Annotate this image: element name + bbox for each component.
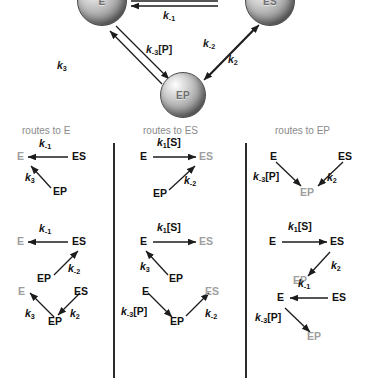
cycle-label-k2: k2 [228, 54, 238, 66]
r2c3-node-es: ES [330, 236, 344, 247]
r3c2-node-ep: EP [170, 316, 184, 327]
r3c2-node-es: ES [205, 286, 219, 297]
cycle-node-ep-label: EP [176, 90, 190, 101]
r1c2-node-es: ES [199, 151, 213, 162]
r2c1-label-k-minus-2: k-2 [68, 263, 80, 275]
r2c3-label-k1-s: k1[S] [288, 221, 312, 233]
cycle-node-e-label: E [99, 0, 106, 7]
r3c1-label-k2: k2 [70, 308, 80, 320]
r1c1-node-es: ES [72, 151, 86, 162]
r1c3-label-k2: k2 [327, 172, 337, 184]
r3c1-node-e: E [18, 286, 25, 297]
r2c3-node-e: E [269, 236, 276, 247]
r3c2-arrow-e-to-ep [148, 293, 172, 317]
r2c1-node-e: E [17, 236, 24, 247]
r2c2-node-ep: EP [169, 273, 183, 284]
routes-grid: routes to E routes to ES routes to EP [0, 120, 369, 388]
r2c3-label-k2: k2 [331, 260, 341, 272]
cycle-node-ep: EP [160, 72, 206, 118]
r3c1-node-es: ES [74, 286, 88, 297]
cycle-label-k-minus-1: k-1 [163, 10, 175, 22]
r1c1-label-k3: k3 [25, 172, 35, 184]
r1c1-node-ep: EP [53, 186, 67, 197]
r3c3-label-k-minus-1: k-1 [298, 278, 310, 290]
r3c3-node-es: ES [332, 292, 346, 303]
cycle-label-k3: k3 [57, 60, 67, 72]
r3c1-node-ep: EP [48, 316, 62, 327]
r1c2-label-k1-s: k1[S] [157, 137, 181, 149]
r2c2-label-k3: k3 [140, 261, 150, 273]
r1c1-label-k-minus-1: k-1 [39, 138, 51, 150]
r3c3-arrow-e-to-ep [285, 308, 310, 332]
r3c3-label-k-minus-3-p: k-3[P] [255, 312, 281, 324]
r1c3-node-ep: EP [300, 187, 314, 198]
r1c3-node-es: ES [338, 151, 352, 162]
cycle-label-k-minus-2: k-2 [203, 38, 215, 50]
arrow-ep-to-es [210, 25, 259, 75]
r1c2-label-k-minus-2: k-2 [184, 175, 196, 187]
r2c2-node-es: ES [199, 236, 213, 247]
r2c2-node-e: E [140, 236, 147, 247]
r3c3-node-ep: EP [307, 331, 321, 342]
r3c2-node-e: E [142, 286, 149, 297]
r1c3-label-k-minus-3-p: k-3[P] [253, 171, 279, 183]
r2c3-arrow-es-to-ep [308, 252, 330, 276]
r3c1-label-k3: k3 [25, 308, 35, 320]
r1c2-node-e: E [140, 151, 147, 162]
r1c3-arrow-e-to-ep [276, 162, 301, 186]
reaction-cycle-diagram: E ES EP k-1 k-3[P] k3 k-2 k2 [0, 0, 369, 122]
arrow-ep-to-e [110, 31, 162, 84]
cycle-node-es-label: ES [263, 0, 277, 7]
r2c2-label-k1-s: k1[S] [157, 222, 181, 234]
r3c3-node-e: E [277, 292, 284, 303]
r1c2-node-ep: EP [153, 188, 167, 199]
r2c1-node-ep: EP [37, 273, 51, 284]
r3c2-label-k-minus-3-p: k-3[P] [121, 306, 147, 318]
r2c1-node-es: ES [72, 236, 86, 247]
r1c3-node-e: E [270, 151, 277, 162]
cycle-label-k-minus-3-p: k-3[P] [146, 44, 172, 56]
r3c2-label-k-minus-2: k-2 [205, 308, 217, 320]
routes-arrows [0, 120, 369, 388]
r2c1-label-k-minus-1: k-1 [39, 223, 51, 235]
r1c1-node-e: E [17, 151, 24, 162]
